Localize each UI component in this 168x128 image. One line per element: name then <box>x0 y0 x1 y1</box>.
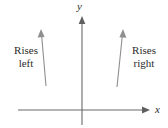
y-axis-arrowhead <box>79 16 86 24</box>
rises-right-label-line2: right <box>122 57 166 70</box>
rises-left-label-line2: left <box>4 57 48 70</box>
rises-left-label-line1: Rises <box>4 44 48 57</box>
x-axis-label: x <box>155 103 160 115</box>
rises-right-label-line1: Rises <box>122 44 166 57</box>
left-branch-arrowhead <box>38 29 45 38</box>
y-axis-label: y <box>77 0 82 12</box>
rises-right-label: Rises right <box>122 44 166 69</box>
rises-left-label: Rises left <box>4 44 48 69</box>
x-axis-arrowhead <box>142 107 150 114</box>
right-branch-arrowhead <box>119 29 126 38</box>
end-behavior-figure: y x Rises left Rises right <box>0 0 168 128</box>
